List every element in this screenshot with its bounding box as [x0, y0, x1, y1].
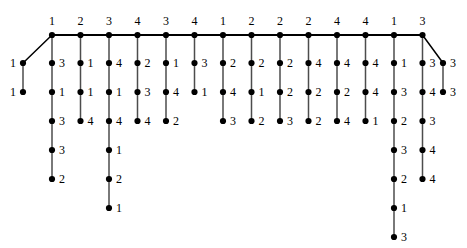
left-diagonal-branch-diagonal-edge	[23, 35, 52, 63]
branch-node	[277, 118, 283, 124]
branch-node-label: 2	[259, 57, 265, 69]
branch-node-label: 1	[88, 86, 94, 98]
branch-node-label: 4	[173, 86, 179, 98]
spine-node-label: 4	[135, 15, 141, 27]
branch-node	[305, 60, 311, 66]
branch-node-label: 4	[316, 57, 322, 69]
branch-node	[49, 176, 55, 182]
branch-node	[191, 60, 197, 66]
branch-node-label: 1	[59, 86, 65, 98]
branch-node	[391, 60, 397, 66]
branch-node-label: 2	[401, 115, 407, 127]
branch-node	[391, 205, 397, 211]
branch-node-label: 3	[287, 115, 293, 127]
branch-node	[220, 118, 226, 124]
branch-node	[334, 60, 340, 66]
branch-node	[334, 89, 340, 95]
branch-node	[163, 89, 169, 95]
branch-node	[248, 60, 254, 66]
branch-node	[191, 89, 197, 95]
right-diagonal-branch-node-label: 3	[450, 57, 456, 69]
branch-node-label: 2	[145, 57, 151, 69]
branch-node	[49, 89, 55, 95]
right-diagonal-branch-node-label: 3	[450, 86, 456, 98]
spine-node	[163, 32, 169, 38]
branch-node	[49, 118, 55, 124]
branch-node	[134, 89, 140, 95]
branch-node-label: 1	[116, 86, 122, 98]
branch-node-label: 2	[401, 173, 407, 185]
spine-node-label: 2	[78, 15, 84, 27]
branch-node-label: 2	[259, 115, 265, 127]
spine-node-label: 4	[363, 15, 369, 27]
branch-node	[362, 89, 368, 95]
left-diagonal-branch-node-label: 1	[10, 86, 16, 98]
branch-node-label: 3	[430, 115, 436, 127]
branch-node-label: 4	[344, 115, 350, 127]
spine-node-label: 4	[334, 15, 340, 27]
branch-node	[106, 176, 112, 182]
branch-node	[362, 60, 368, 66]
spine-node	[49, 32, 55, 38]
branch-node	[362, 118, 368, 124]
branch-node	[391, 234, 397, 240]
branch-node-label: 1	[88, 57, 94, 69]
branch-node	[248, 118, 254, 124]
spine-node	[391, 32, 397, 38]
branch-node-label: 1	[259, 86, 265, 98]
branch-node	[163, 60, 169, 66]
right-diagonal-branch-node	[440, 89, 446, 95]
spine-node	[334, 32, 340, 38]
branch-node-label: 3	[401, 86, 407, 98]
spine-node	[419, 32, 425, 38]
branch-node	[106, 205, 112, 211]
branch-node-label: 4	[373, 57, 379, 69]
spine-node-label: 4	[192, 15, 198, 27]
branch-node-label: 2	[316, 115, 322, 127]
spine-node-label: 3	[106, 15, 112, 27]
branch-node	[391, 147, 397, 153]
branch-node-label: 4	[145, 115, 151, 127]
branch-node-label: 1	[202, 86, 208, 98]
tree-diagram-figure: 1234341222441331332114414121234142312432…	[0, 0, 467, 248]
branch-node	[248, 89, 254, 95]
branch-node-label: 3	[401, 231, 407, 243]
spine-node-label: 2	[277, 15, 283, 27]
branch-node	[106, 118, 112, 124]
spine-node	[305, 32, 311, 38]
branch-node	[77, 60, 83, 66]
branch-node-label: 2	[316, 86, 322, 98]
branch-node-label: 3	[59, 115, 65, 127]
branch-node	[305, 89, 311, 95]
branch-node-label: 2	[230, 57, 236, 69]
branch-node	[305, 118, 311, 124]
branch-node	[277, 89, 283, 95]
branch-node	[391, 89, 397, 95]
branch-node-label: 2	[173, 115, 179, 127]
branch-node-label: 1	[401, 202, 407, 214]
spine-node-label: 1	[49, 15, 55, 27]
spine-node-label: 1	[220, 15, 226, 27]
branch-node	[277, 60, 283, 66]
branch-node	[134, 118, 140, 124]
branch-node-label: 3	[145, 86, 151, 98]
branch-node	[391, 176, 397, 182]
branch-node-label: 2	[116, 173, 122, 185]
branch-node	[77, 118, 83, 124]
branch-node-label: 2	[287, 57, 293, 69]
spine-node-label: 2	[306, 15, 312, 27]
branch-node-label: 2	[59, 173, 65, 185]
branch-node	[391, 118, 397, 124]
spine-node-label: 3	[420, 15, 426, 27]
left-diagonal-branch-node	[20, 60, 26, 66]
branch-node-label: 4	[344, 57, 350, 69]
branch-node	[419, 118, 425, 124]
branch-node-label: 4	[88, 115, 94, 127]
branch-node-label: 4	[430, 144, 436, 156]
branch-node	[49, 147, 55, 153]
branch-node	[419, 60, 425, 66]
branch-node-label: 1	[173, 57, 179, 69]
branch-node	[77, 89, 83, 95]
branch-node	[419, 147, 425, 153]
spine-node	[248, 32, 254, 38]
